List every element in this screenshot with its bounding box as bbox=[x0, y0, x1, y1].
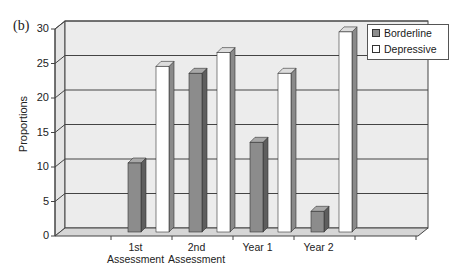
legend-label: Borderline bbox=[384, 27, 432, 39]
chart-legend: Borderline Depressive bbox=[367, 24, 449, 60]
x-tick-line: Year 2 bbox=[279, 241, 359, 253]
legend-item-borderline: Borderline bbox=[368, 25, 448, 41]
y-tick: 30 bbox=[27, 22, 49, 34]
legend-label: Depressive bbox=[384, 43, 437, 55]
y-tick: 10 bbox=[27, 160, 49, 172]
y-tick: 15 bbox=[27, 126, 49, 138]
y-tick: 0 bbox=[27, 229, 49, 241]
legend-swatch-depressive bbox=[372, 45, 380, 53]
y-tick: 25 bbox=[27, 57, 49, 69]
y-tick: 5 bbox=[27, 195, 49, 207]
x-tick-year-2: Year 2 bbox=[279, 241, 359, 253]
y-tick: 20 bbox=[27, 91, 49, 103]
legend-item-depressive: Depressive bbox=[368, 41, 448, 57]
legend-swatch-borderline bbox=[372, 29, 380, 37]
x-tick-line: Assessment bbox=[157, 253, 237, 265]
